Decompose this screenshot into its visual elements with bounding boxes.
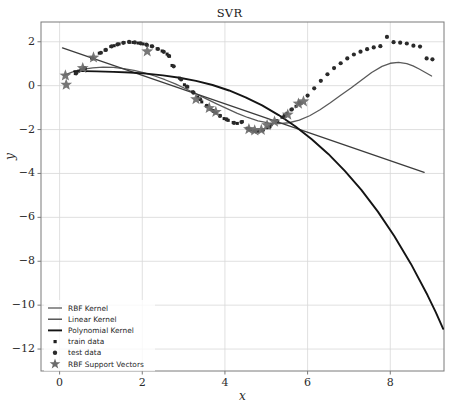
test-data-point [127,40,131,44]
test-data-point [99,51,103,55]
test-data-point [156,47,160,51]
legend-label: RBF Kernel [68,304,108,313]
x-tick-label: 0 [56,376,63,389]
series-lines [62,48,443,329]
test-data-point [144,43,148,47]
test-data-point [358,50,362,54]
test-data-point [172,64,176,68]
support-vector-point [88,51,100,62]
svr-plot: 20−2−4−6−8−10−1202468 RBF KernelLinear K… [0,0,459,414]
test-data-point [391,40,395,44]
test-data-point [325,72,329,76]
test-data-point [104,48,108,52]
legend-label: train data [68,337,104,346]
y-tick-label: −10 [12,298,35,311]
x-tick-label: 4 [221,376,228,389]
test-data-point [312,86,316,90]
test-data-point [319,79,323,83]
test-data-point [232,121,236,125]
test-data-point [332,66,336,70]
test-data-point [378,44,382,48]
test-data-point [345,56,349,60]
series-polynomial-kernel [74,71,443,329]
test-data-point [150,44,154,48]
test-data-point [352,52,356,56]
test-data-point [398,41,402,45]
test-data-point [224,117,228,121]
test-data-point [405,41,409,45]
test-data-point [191,91,195,95]
test-data-point [411,44,415,48]
test-data-point [372,45,376,49]
test-data-point [115,42,119,46]
test-data-point [185,84,189,88]
test-data-point [167,54,171,58]
legend-label: test data [68,348,101,357]
test-data-point [133,40,137,44]
test-data-point [139,41,143,45]
train-data-point [236,122,239,125]
test-data-point [385,35,389,39]
test-data-point [162,50,166,54]
test-data-point [121,41,125,45]
x-tick-label: 8 [387,376,394,389]
test-data-point [179,77,183,81]
series-linear-kernel [62,48,424,172]
test-data-markers [74,35,434,134]
y-tick-label: 2 [28,35,35,48]
test-data-point [290,107,294,111]
legend-label: Linear Kernel [68,315,117,324]
y-tick-label: −2 [19,123,35,136]
test-data-point [430,57,434,61]
test-data-point [306,93,310,97]
x-tick-label: 2 [139,376,146,389]
legend-label: RBF Support Vectors [68,360,144,369]
test-data-point [74,71,78,75]
x-tick-label: 6 [304,376,311,389]
y-axis-label: y [3,153,17,161]
test-data-point [365,47,369,51]
y-tick-label: 0 [28,79,35,92]
support-vector-point [59,69,71,80]
legend-label: Polynomial Kernel [68,326,134,335]
y-tick-label: −4 [19,166,35,179]
test-data-point [418,44,422,48]
y-tick-label: −12 [12,342,35,355]
test-data-point [425,56,429,60]
chart-legend[interactable]: RBF KernelLinear KernelPolynomial Kernel… [44,300,155,371]
chart-figure: SVR 20−2−4−6−8−10−1202468 RBF KernelLine… [0,0,459,414]
y-tick-label: −8 [19,254,35,267]
test-data-point [110,44,114,48]
y-tick-label: −6 [19,210,35,223]
test-data-point [339,61,343,65]
test-data-point [239,120,243,124]
x-axis-label: x [239,389,246,403]
